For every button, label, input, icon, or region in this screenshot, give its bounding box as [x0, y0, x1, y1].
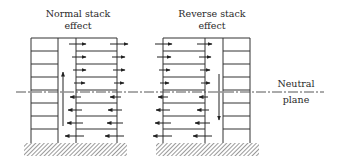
left-ground-hatch: [24, 143, 127, 156]
stack-effect-diagram: [0, 0, 340, 165]
right-ground-hatch: [156, 143, 259, 156]
